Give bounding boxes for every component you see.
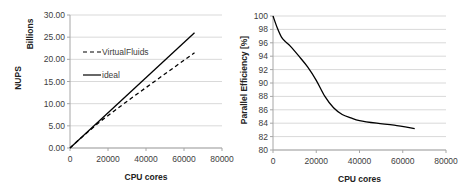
y-tick-label: 30.00 [44,10,66,20]
nups-chart: 0.005.0010.0015.0020.0025.0030.000200004… [0,0,236,188]
x-tick-label: 60000 [391,156,415,166]
x-axis-title: CPU cores [338,174,381,184]
series-line-virtualfluids [70,53,195,148]
parallel-efficiency-chart: 8082848688909294969810002000040000600008… [236,0,473,188]
y-tick-label: 96 [259,38,269,48]
y-tick-label: 84 [259,118,269,128]
y-tick-label: 98 [259,24,269,34]
y-tick-label: 80 [259,145,269,155]
y-tick-label: 20.00 [44,54,66,64]
x-tick-label: 80000 [434,156,458,166]
x-tick-label: 0 [68,154,73,164]
legend-label-ideal: ideal [102,70,120,80]
y-tick-label: 25.00 [44,32,66,42]
x-axis-title: CPU cores [125,172,168,182]
y-axis-title: Parallel Efficiency [%] [239,36,249,125]
nups-chart-plot: 0.005.0010.0015.0020.0025.0030.000200004… [0,0,236,188]
y-axis-title: NUPS [13,66,23,90]
parallel-efficiency-chart-plot: 8082848688909294969810002000040000600008… [236,0,473,188]
legend-label-virtualfluids: VirtualFluids [102,47,149,57]
x-tick-label: 20000 [304,156,328,166]
x-tick-label: 20000 [96,154,120,164]
x-tick-label: 40000 [134,154,158,164]
y-tick-label: 88 [259,91,269,101]
y-tick-label: 92 [259,65,269,75]
y-tick-label: 86 [259,105,269,115]
y-tick-label: 10.00 [44,99,66,109]
y-tick-label: 94 [259,51,269,61]
x-tick-label: 0 [271,156,276,166]
x-tick-label: 80000 [210,154,234,164]
series-line-parallel-efficiency [273,16,415,129]
legend: VirtualFluidsideal [83,47,149,80]
y-tick-label: 0.00 [48,143,65,153]
y-axis-units-label: Billions [25,18,35,49]
x-tick-label: 40000 [348,156,372,166]
y-tick-label: 100 [254,11,268,21]
y-tick-label: 90 [259,78,269,88]
y-tick-label: 5.00 [48,121,65,131]
y-tick-label: 15.00 [44,77,66,87]
x-tick-label: 60000 [172,154,196,164]
y-tick-label: 82 [259,132,269,142]
